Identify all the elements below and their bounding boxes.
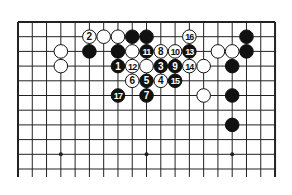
black-stone-15: 15	[168, 74, 182, 88]
move-number: 13	[185, 47, 194, 57]
black-stone	[225, 118, 239, 132]
move-number: 17	[114, 91, 123, 101]
black-stone-1: 1	[111, 59, 125, 73]
move-number: 4	[158, 75, 164, 86]
white-stone	[97, 30, 111, 44]
star-point	[145, 152, 149, 156]
stone-circle	[54, 45, 68, 59]
white-stone-8: 8	[154, 45, 168, 59]
move-number: 15	[171, 76, 180, 86]
stone-circle	[225, 89, 239, 103]
move-number: 8	[158, 46, 164, 57]
stone-circle	[140, 59, 154, 73]
white-stone	[197, 89, 211, 103]
move-number: 5	[144, 75, 150, 86]
move-number: 1	[115, 61, 121, 72]
white-stone-2: 2	[83, 30, 97, 44]
white-stone	[54, 45, 68, 59]
black-stone-7: 7	[140, 89, 154, 103]
white-stone-16: 16	[183, 30, 197, 44]
stone-circle	[240, 45, 254, 59]
white-stone-12: 12	[125, 59, 139, 73]
move-number: 12	[128, 62, 137, 72]
white-stone	[111, 30, 125, 44]
stone-circle	[125, 30, 139, 44]
move-number: 10	[171, 47, 180, 57]
white-stone	[140, 59, 154, 73]
white-stone-6: 6	[125, 74, 139, 88]
stone-circle	[111, 45, 125, 59]
white-stone	[54, 59, 68, 73]
black-stone	[240, 30, 254, 44]
stone-circle	[225, 45, 239, 59]
move-number: 6	[129, 75, 135, 86]
black-stone-5: 5	[140, 74, 154, 88]
stone-circle	[225, 118, 239, 132]
black-stone	[140, 30, 154, 44]
move-number: 11	[143, 47, 152, 57]
white-stone-4: 4	[154, 74, 168, 88]
star-point	[230, 152, 234, 156]
stone-circle	[197, 59, 211, 73]
stone-circle	[97, 30, 111, 44]
black-stone-3: 3	[154, 59, 168, 73]
stone-circle	[197, 89, 211, 103]
move-number: 7	[144, 90, 150, 101]
star-point	[59, 152, 63, 156]
white-stone	[211, 45, 225, 59]
white-stone-10: 10	[168, 45, 182, 59]
stone-circle	[140, 30, 154, 44]
white-stone	[225, 45, 239, 59]
go-board: 2161181013112391465415177	[0, 0, 292, 195]
stone-circle	[54, 59, 68, 73]
stone-circle	[225, 59, 239, 73]
white-stone	[125, 45, 139, 59]
white-stone-14: 14	[183, 59, 197, 73]
black-stone	[225, 59, 239, 73]
stone-circle	[240, 30, 254, 44]
stone-circle	[83, 45, 97, 59]
move-number: 2	[87, 31, 93, 42]
move-number: 3	[158, 61, 164, 72]
black-stone	[111, 45, 125, 59]
black-stone-17: 17	[111, 89, 125, 103]
black-stone	[240, 45, 254, 59]
black-stone-13: 13	[183, 45, 197, 59]
black-stone-11: 11	[140, 45, 154, 59]
black-stone	[225, 89, 239, 103]
black-stone	[125, 30, 139, 44]
white-stone	[197, 59, 211, 73]
move-number: 14	[185, 62, 194, 72]
stone-circle	[211, 45, 225, 59]
stone-circle	[125, 45, 139, 59]
black-stone	[83, 45, 97, 59]
move-number: 9	[172, 61, 178, 72]
stone-circle	[111, 30, 125, 44]
black-stone-9: 9	[168, 59, 182, 73]
move-number: 16	[185, 32, 194, 42]
